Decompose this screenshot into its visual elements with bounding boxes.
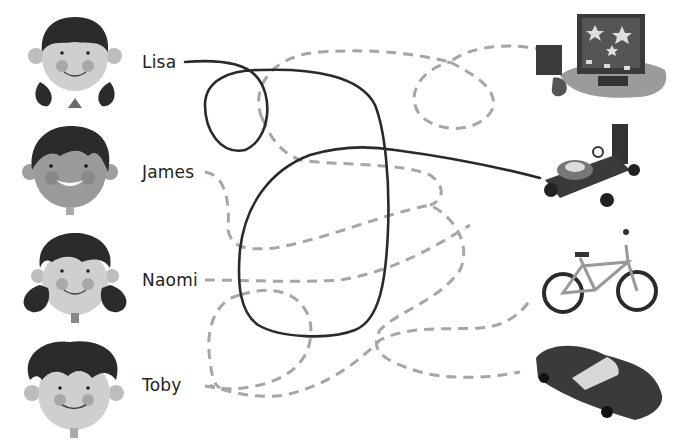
car-icon [536, 346, 662, 420]
child-name-james: James [142, 162, 194, 182]
bicycle-icon [544, 229, 656, 312]
computer-icon [536, 14, 666, 98]
child-name-lisa: Lisa [142, 52, 176, 72]
child-name-naomi: Naomi [142, 270, 198, 290]
items [0, 0, 682, 448]
maze-exercise: Lisa James Naomi Toby [0, 0, 682, 448]
robot-kit-icon [544, 124, 640, 207]
child-name-toby: Toby [142, 375, 182, 395]
